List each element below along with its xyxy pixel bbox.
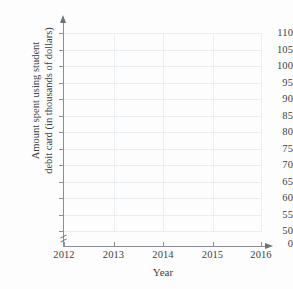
y-tick-label: 60 [235, 193, 293, 204]
x-axis-title: Year [64, 266, 262, 278]
x-tick-label: 2012 [44, 250, 84, 261]
y-axis-line [63, 22, 64, 247]
x-tick-label: 2013 [94, 250, 134, 261]
x-tick-label: 2015 [193, 250, 233, 261]
gridline-vertical [163, 33, 164, 231]
y-tick-label: 50 [235, 226, 293, 237]
y-tick-mark [59, 66, 64, 67]
y-tick-mark [59, 99, 64, 100]
y-tick-label: 55 [235, 210, 293, 221]
y-tick-mark [59, 231, 64, 232]
x-tick-mark [261, 242, 262, 247]
y-tick-mark [59, 149, 64, 150]
x-tick-mark [213, 242, 214, 247]
gridline-vertical [213, 33, 214, 231]
x-tick-mark [114, 242, 115, 247]
y-tick-label: 110 [235, 28, 293, 39]
y-tick-label: 100 [235, 61, 293, 72]
gridline-vertical [114, 33, 115, 231]
x-tick-mark [163, 242, 164, 247]
y-tick-mark [59, 132, 64, 133]
y-axis-title-line-2: debit card (in thousands of dollars) [42, 0, 55, 206]
y-tick-mark [59, 33, 64, 34]
y-axis-arrow-icon [60, 15, 66, 23]
y-tick-label: 95 [235, 78, 293, 89]
y-tick-label: 90 [235, 94, 293, 105]
y-tick-label: 105 [235, 45, 293, 56]
chart-screenshot: 110 105 100 95 90 85 80 75 70 65 60 55 5… [0, 0, 293, 289]
y-tick-label: 85 [235, 111, 293, 122]
y-tick-label: 70 [235, 160, 293, 171]
y-axis-title-line-1: Amount spent using student [30, 0, 43, 206]
y-tick-label: 0 [235, 239, 293, 250]
y-tick-mark [59, 165, 64, 166]
gridline-horizontal [64, 231, 262, 232]
y-tick-mark [59, 50, 64, 51]
y-tick-label: 80 [235, 127, 293, 138]
y-tick-mark [59, 116, 64, 117]
y-tick-label: 75 [235, 144, 293, 155]
y-axis-title: Amount spent using student debit card (i… [30, 0, 55, 206]
y-tick-mark [59, 83, 64, 84]
y-tick-mark [59, 198, 64, 199]
y-tick-mark [59, 215, 64, 216]
y-tick-label: 65 [235, 177, 293, 188]
y-tick-mark [59, 182, 64, 183]
x-tick-label: 2014 [143, 250, 183, 261]
plot-area [64, 33, 262, 231]
x-tick-label: 2016 [241, 250, 281, 261]
x-tick-mark [64, 242, 65, 247]
